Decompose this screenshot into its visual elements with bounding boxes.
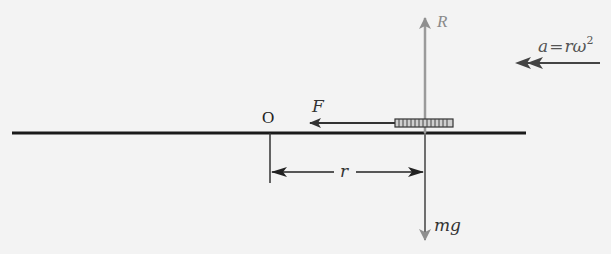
weight-label: mg: [434, 215, 461, 235]
radius-label: r: [340, 161, 349, 181]
friction-label: F: [311, 96, 325, 116]
origin-label: O: [262, 108, 274, 127]
acceleration-label: a=rω2: [538, 34, 593, 56]
force-diagram: R a=rω2 O F r mg: [0, 0, 611, 254]
reaction-label: R: [436, 12, 448, 31]
acceleration-arrow: [515, 57, 600, 69]
coin: [395, 119, 453, 127]
